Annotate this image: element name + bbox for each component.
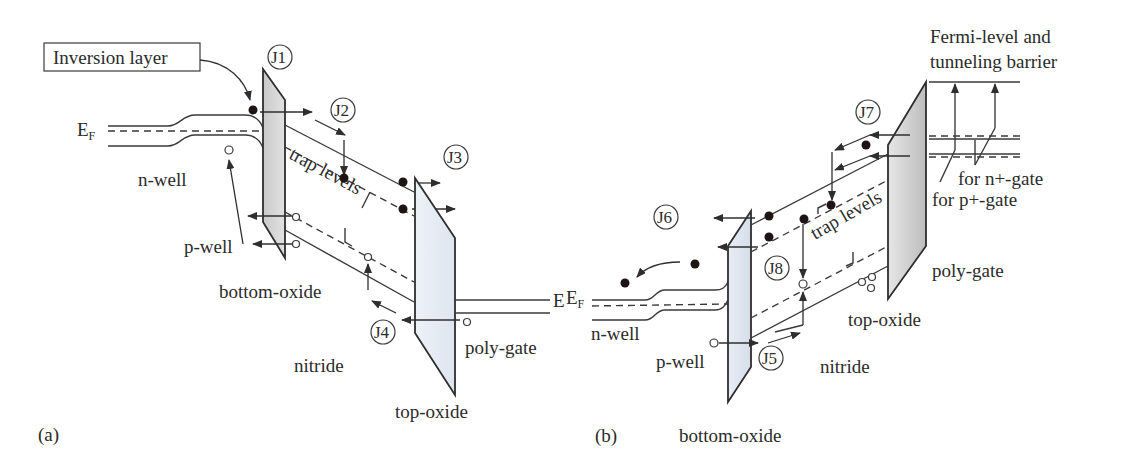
- panel-a-label: (a): [38, 424, 59, 446]
- bottom-oxide-barrier-a: [263, 69, 285, 258]
- panel-b-label: (b): [595, 425, 617, 447]
- bottom-oxide-label-a: bottom-oxide: [219, 281, 321, 302]
- fermi-level-label-a: EF: [77, 119, 96, 143]
- current-j1-label: J1: [271, 48, 286, 67]
- current-j5-label: J5: [762, 349, 777, 368]
- fermi-tunneling-annotation-line2: tunneling barrier: [930, 51, 1058, 72]
- poly-gate-label-b: poly-gate: [932, 260, 1004, 281]
- p-plus-gate-label: for p+-gate: [932, 189, 1017, 210]
- top-oxide-label-a: top-oxide: [395, 401, 468, 422]
- n-well-label-b: n-well: [591, 323, 640, 344]
- trap-levels-label-a: trap levels: [286, 143, 365, 198]
- band-diagram-figure: Inversion layer EF J1 J2 trap levels: [0, 0, 1124, 471]
- bottom-oxide-barrier-b: [728, 211, 751, 402]
- nitride-label-a: nitride: [294, 355, 344, 376]
- bottom-oxide-label-b: bottom-oxide: [679, 425, 781, 446]
- panel-b: EF n-well J6 trap levels J8: [566, 26, 1058, 447]
- nitride-label-b: nitride: [820, 356, 870, 377]
- n-plus-gate-label: for n+-gate: [958, 168, 1043, 189]
- n-well-label-a: n-well: [138, 169, 187, 190]
- gate-fermi-label-a: E: [553, 290, 565, 311]
- inversion-layer-label: Inversion layer: [53, 47, 168, 68]
- current-j2-label: J2: [334, 101, 349, 120]
- inversion-layer-callout: Inversion layer: [44, 43, 250, 100]
- fermi-tunneling-annotation-line1: Fermi-level and: [930, 26, 1051, 47]
- current-j3-label: J3: [447, 148, 462, 167]
- top-oxide-label-b: top-oxide: [848, 309, 921, 330]
- trap-levels-label-b: trap levels: [807, 186, 886, 243]
- current-j4-label: J4: [374, 323, 390, 342]
- current-j7-label: J7: [859, 103, 875, 122]
- top-oxide-barrier-b: [888, 82, 926, 299]
- top-oxide-barrier-a: [415, 178, 455, 395]
- current-j8-label: J8: [768, 259, 783, 278]
- p-well-label-a: p-well: [184, 236, 233, 257]
- current-j6-label: J6: [657, 208, 672, 227]
- p-well-label-b: p-well: [656, 351, 705, 372]
- panel-a: Inversion layer EF J1 J2 trap levels: [38, 43, 565, 446]
- fermi-level-label-b: EF: [566, 287, 585, 311]
- poly-gate-label-a: poly-gate: [465, 337, 537, 358]
